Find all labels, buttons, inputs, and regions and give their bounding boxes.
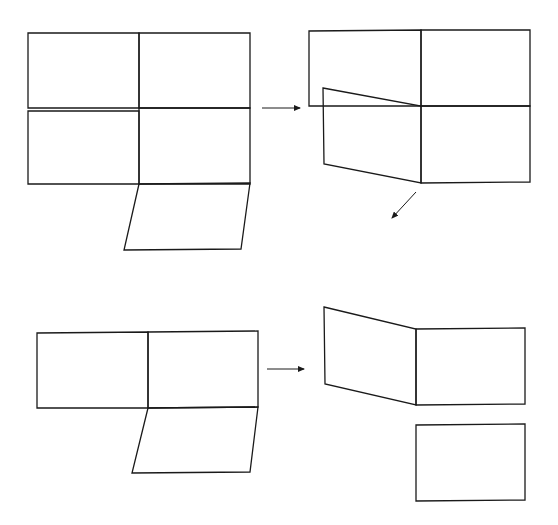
face-top-right [139,33,250,108]
face-front-right [421,106,530,183]
panel-top-right [309,30,530,183]
face-left [37,332,148,408]
arrows [262,108,416,369]
face-slanted [324,307,416,405]
panel-top-left [28,33,250,250]
face-right [148,331,258,408]
flap-bottom [132,407,258,473]
flap-bottom [124,183,250,250]
face-back-right [421,30,530,106]
face-mid-left [28,111,139,184]
face-top-left [28,33,139,108]
diagram-canvas [0,0,558,525]
arrow-diagonal-down-icon [392,192,416,218]
face-back-left [309,30,421,106]
face-front-slanted [323,88,421,183]
panel-bottom-right [324,307,525,501]
face-right [416,328,525,405]
panel-bottom-left [37,331,258,473]
face-mid-right [139,108,250,184]
face-detached [416,424,525,501]
